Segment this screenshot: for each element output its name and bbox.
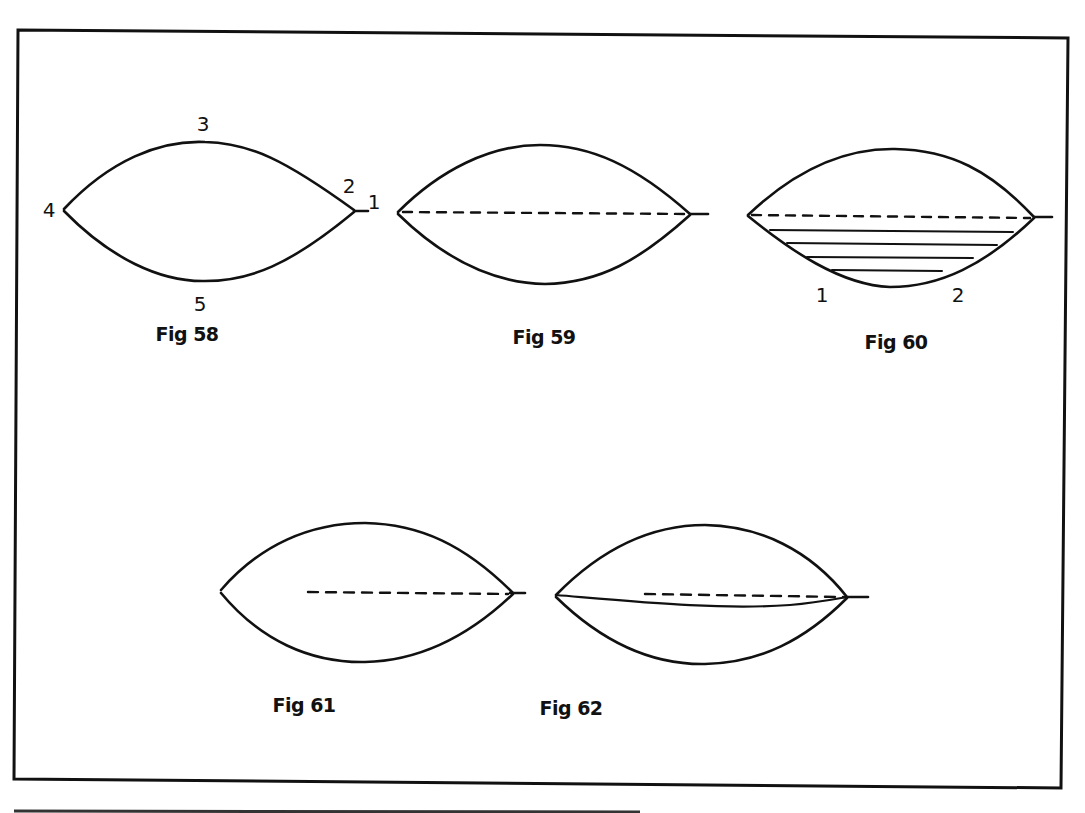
- fig60-hatch-4: [832, 270, 942, 271]
- fig62-caption: Fig 62: [539, 697, 602, 719]
- fig60-label-2: 2: [952, 285, 965, 305]
- fig59-centerline: [403, 212, 688, 214]
- fig61-drawing: [221, 523, 525, 662]
- figure-plate: [0, 0, 1085, 813]
- fig58-label-4: 4: [43, 200, 56, 220]
- fig60-hatch-1: [770, 230, 1013, 232]
- fig59-caption: Fig 59: [512, 326, 575, 348]
- fig60-caption: Fig 60: [864, 331, 927, 353]
- fig61-dashed-line: [308, 592, 508, 594]
- fig60-upper-arc: [748, 149, 1034, 217]
- fig60-label-1: 1: [816, 285, 829, 305]
- fig60-hatch-2: [787, 243, 997, 245]
- fig58-drawing: [64, 142, 368, 281]
- fig60-lower-arc: [748, 216, 1034, 287]
- fig59-lower-arc: [398, 214, 690, 284]
- fig61-lower-arc: [221, 593, 513, 662]
- fig59-upper-arc: [398, 145, 690, 214]
- fig60-hatch-3: [807, 257, 973, 258]
- fig60-centerline: [752, 215, 1030, 218]
- fig58-label-5: 5: [194, 294, 207, 314]
- fig62-upper-arc: [556, 525, 847, 597]
- fig58-label-3: 3: [197, 114, 210, 134]
- fig61-caption: Fig 61: [272, 694, 335, 716]
- fig58-label-1: 1: [368, 192, 381, 212]
- fig61-upper-arc: [221, 523, 513, 593]
- fig58-upper-arc: [64, 142, 354, 210]
- fig58-caption: Fig 58: [155, 323, 218, 345]
- fig62-lower-arc: [556, 597, 847, 664]
- fig58-lower-arc: [64, 211, 354, 281]
- fig59-drawing: [398, 145, 708, 284]
- fig58-label-2: 2: [343, 176, 356, 196]
- fig60-drawing: [748, 149, 1052, 287]
- fig62-curved-line: [556, 595, 847, 607]
- fig62-drawing: [556, 525, 868, 664]
- bottom-rule: [14, 811, 640, 812]
- fig62-dashed-line: [645, 594, 845, 597]
